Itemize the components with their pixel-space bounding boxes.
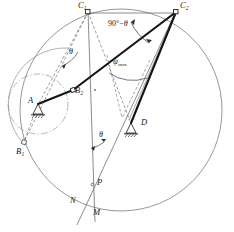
ground-support-d [124,123,138,137]
dashed-construction-lines [24,12,130,142]
theta-symbol: θ [124,19,128,28]
circle-center-mark [94,89,96,91]
label-b2-sub: 2 [80,90,83,96]
label-theta-upper: θ [69,48,73,56]
label-b1-sub: 1 [21,151,24,157]
theta-lower-text: θ [99,130,103,139]
psi-max-arc [109,73,147,80]
label-point-n: N [70,196,76,205]
arrowhead-theta-lower-right [101,139,106,142]
diagram-canvas [0,0,234,232]
label-p-text: P [97,177,102,187]
label-point-m: M [93,208,100,217]
dashed-c1-b1 [24,12,88,142]
joint-c2 [174,9,178,13]
label-c1-text: C [78,0,84,10]
support-hatching-d [125,134,137,137]
psi-subscript: max [118,62,127,67]
label-point-d: D [141,118,147,127]
mechanism-links [38,12,176,123]
label-point-b1: B1 [16,147,24,156]
label-c2-sub: 2 [186,5,189,11]
label-point-a: A [28,96,33,105]
support-triangle-d [126,123,136,133]
label-c2-text: C [180,0,186,10]
label-point-p: P [97,178,102,187]
support-triangle-a [33,104,43,114]
label-d-text: D [141,117,147,127]
joint-b1 [21,140,26,145]
arrowhead-ninety-theta-right [146,39,152,43]
arrowhead-theta-lower-left [91,146,95,151]
ninety-text: 90 [108,19,116,28]
ground-support-a [31,104,45,118]
label-ninety-minus-theta: 90°−θ [108,20,128,28]
label-n-text: N [70,195,76,205]
construction-lines [77,11,176,225]
label-theta-lower: θ [99,131,103,139]
label-point-c1: C1 [78,1,86,10]
label-c1-sub: 1 [84,5,87,11]
linkage-diagram: A B1 B2 C1 C2 D P N M θ θ 90°−θ ψmax [0,0,234,232]
label-m-text: M [93,207,100,217]
label-point-c2: C2 [180,1,188,10]
revolute-joints [21,9,178,185]
circumscribed-circle [20,9,222,211]
label-point-b2: B2 [75,86,83,95]
vertical-axis-line [88,11,95,222]
theta-upper-text: θ [69,47,73,56]
label-a-text: A [28,95,33,105]
label-psi-max: ψmax [113,58,127,66]
joint-p [91,183,94,186]
